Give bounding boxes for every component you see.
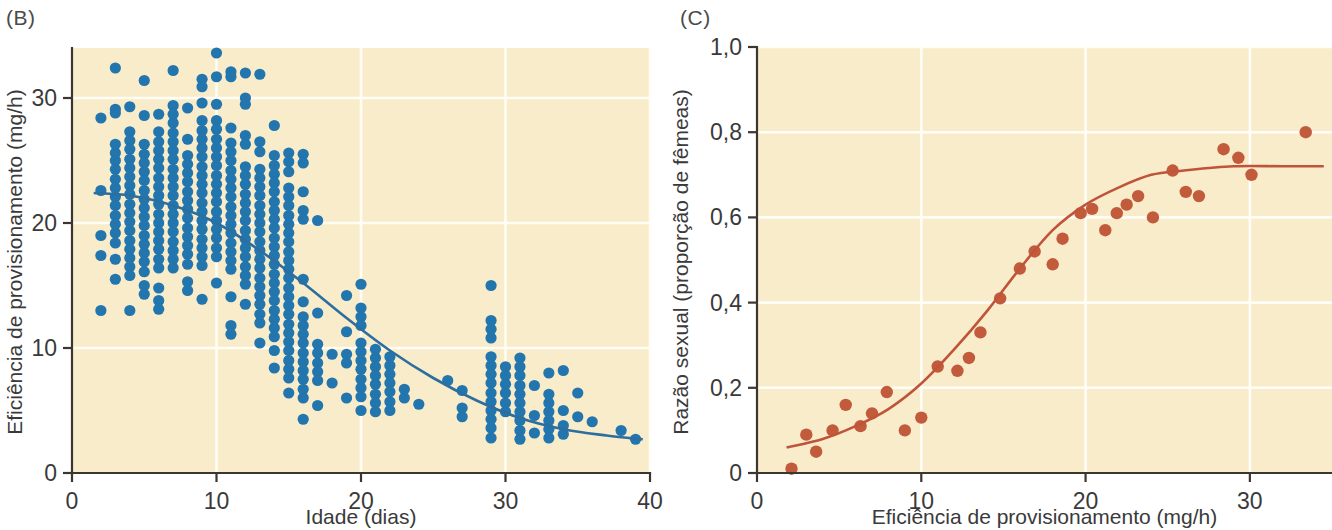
y-tick-label: 10 (31, 335, 57, 361)
data-point (269, 362, 280, 373)
data-point (240, 251, 251, 262)
data-point (269, 222, 280, 233)
data-point (240, 99, 251, 110)
data-point (196, 115, 207, 126)
data-point (514, 370, 525, 381)
data-point (168, 226, 179, 237)
data-point (153, 244, 164, 255)
y-tick-label: 0,8 (710, 119, 742, 145)
y-tick-label: 0,2 (710, 375, 742, 401)
data-point (355, 391, 366, 402)
data-point (283, 309, 294, 320)
data-point (1232, 152, 1244, 164)
data-point (211, 124, 222, 135)
data-point (211, 160, 222, 171)
data-point (139, 266, 150, 277)
data-point (240, 215, 251, 226)
data-point (269, 150, 280, 161)
data-point (254, 337, 265, 348)
x-tick-label: 40 (637, 488, 663, 514)
data-point (139, 110, 150, 121)
data-point (341, 326, 352, 337)
figure-container: (B) 0102030010203040Idade (dias)Eficiênc… (0, 0, 1332, 530)
data-point (283, 166, 294, 177)
data-point (810, 446, 822, 458)
data-point (225, 264, 236, 275)
x-axis-title: Eficiência de provisionamento (mg/h) (872, 505, 1218, 528)
data-point (899, 424, 911, 436)
data-point (139, 289, 150, 300)
data-point (1245, 169, 1257, 181)
data-point (225, 191, 236, 202)
y-tick-label: 0,6 (710, 204, 742, 230)
data-point (211, 196, 222, 207)
data-point (211, 232, 222, 243)
data-point (225, 71, 236, 82)
data-point (269, 295, 280, 306)
data-point (124, 144, 135, 155)
data-point (370, 406, 381, 417)
data-point (963, 352, 975, 364)
data-point (298, 374, 309, 385)
data-point (124, 225, 135, 236)
data-point (1300, 126, 1312, 138)
data-point (312, 400, 323, 411)
panel-c: (C) 00,20,40,60,81,00102030Eficiência de… (666, 0, 1332, 530)
y-tick-label: 1,0 (710, 34, 742, 60)
data-point (298, 186, 309, 197)
data-point (298, 392, 309, 403)
data-point (211, 251, 222, 262)
data-point (384, 386, 395, 397)
y-tick-label: 0,4 (710, 290, 742, 316)
data-point (341, 290, 352, 301)
data-point (283, 372, 294, 383)
data-point (254, 136, 265, 147)
data-point (254, 226, 265, 237)
data-point (1193, 190, 1205, 202)
data-point (182, 259, 193, 270)
panel-b-label: (B) (6, 6, 36, 30)
data-point (840, 399, 852, 411)
x-tick-label: 30 (1237, 488, 1263, 514)
data-point (485, 377, 496, 388)
data-point (110, 237, 121, 248)
data-point (341, 392, 352, 403)
data-point (1056, 233, 1068, 245)
data-point (139, 75, 150, 86)
data-point (196, 81, 207, 92)
panel-c-label: (C) (680, 6, 711, 30)
y-axis-title: Razão sexual (proporção de fêmeas) (669, 89, 692, 435)
data-point (283, 236, 294, 247)
x-axis-title: Idade (dias) (306, 505, 417, 528)
data-point (153, 262, 164, 273)
data-point (514, 434, 525, 445)
data-point (182, 134, 193, 145)
data-point (283, 156, 294, 167)
data-point (370, 379, 381, 390)
data-point (572, 387, 583, 398)
y-tick-label: 30 (31, 85, 57, 111)
y-tick-label: 20 (31, 210, 57, 236)
data-point (327, 377, 338, 388)
data-point (182, 285, 193, 296)
data-point (529, 410, 540, 421)
data-point (139, 256, 150, 267)
data-point (800, 428, 812, 440)
data-point (616, 425, 627, 436)
data-point (168, 154, 179, 165)
data-point (951, 365, 963, 377)
data-point (196, 151, 207, 162)
data-point (139, 139, 150, 150)
data-point (254, 146, 265, 157)
data-point (182, 176, 193, 187)
data-point (196, 187, 207, 198)
data-point (341, 357, 352, 368)
data-point (110, 254, 121, 265)
data-point (355, 364, 366, 375)
data-point (254, 317, 265, 328)
data-point (196, 294, 207, 305)
data-point (587, 416, 598, 427)
data-point (110, 227, 121, 238)
data-point (500, 387, 511, 398)
data-point (485, 432, 496, 443)
